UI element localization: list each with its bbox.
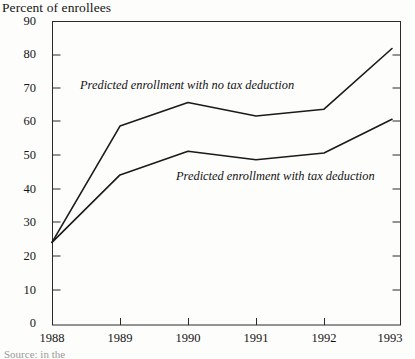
series-annotation-no-tax-deduction: Predicted enrollment with no tax deducti… bbox=[80, 79, 294, 92]
figure-container: Percent of enrollees 90 80 70 60 50 40 3… bbox=[0, 0, 415, 359]
series-annotation-with-tax-deduction: Predicted enrollment with tax deduction bbox=[176, 170, 375, 183]
y-axis-ticks-right bbox=[393, 55, 401, 290]
x-axis-ticks bbox=[121, 318, 325, 325]
y-axis-ticks bbox=[53, 55, 61, 290]
source-note: Source: in the bbox=[4, 349, 65, 358]
